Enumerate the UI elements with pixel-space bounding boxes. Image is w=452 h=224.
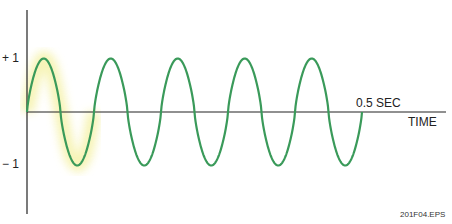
sine-wave-diagram (0, 0, 452, 224)
duration-label: 0.5 SEC (356, 96, 401, 110)
x-axis-label: TIME (408, 115, 437, 129)
figure-id-label: 201F04.EPS (400, 210, 445, 219)
plus-one-label: + 1 (2, 51, 19, 65)
minus-one-label: − 1 (2, 157, 19, 171)
